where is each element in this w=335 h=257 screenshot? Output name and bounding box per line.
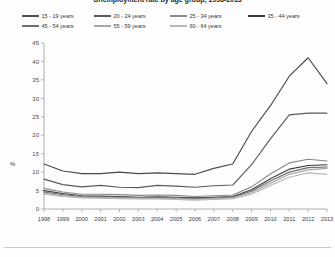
x-tick-label: 2003 <box>132 216 144 222</box>
legend-label: 15 - 19 years <box>42 13 74 19</box>
legend-swatch-icon <box>22 25 39 27</box>
chart-title: Unemployment rate by age group, 1998-201… <box>0 0 335 4</box>
plot-area: % 051015202530354045 1998199920002001200… <box>0 33 335 243</box>
series-line-15---19-years <box>44 58 327 175</box>
x-tick-label: 2007 <box>208 216 220 222</box>
legend-swatch-icon <box>248 15 265 17</box>
legend-item-55---59-years[interactable]: 55 - 59 years <box>94 21 164 31</box>
x-tick-label: 1999 <box>57 216 69 222</box>
legend-item-45---54-years[interactable]: 45 - 54 years <box>22 21 88 31</box>
legend-swatch-icon <box>94 15 111 17</box>
footer-divider <box>4 247 331 248</box>
x-tick-label: 2008 <box>226 216 238 222</box>
y-axis-label: % <box>10 161 15 167</box>
y-tick-label: 30 <box>32 96 39 102</box>
legend-label: 45 - 54 years <box>42 23 74 29</box>
legend-swatch-icon <box>22 15 39 17</box>
x-tick-label: 1998 <box>38 216 50 222</box>
series-line-25---34-years <box>44 159 327 196</box>
legend-item-25---34-years[interactable]: 25 - 34 years <box>170 11 242 21</box>
y-tick-label: 45 <box>32 40 39 46</box>
legend-label: 25 - 34 years <box>190 13 222 19</box>
y-tick-label: 15 <box>32 151 39 157</box>
legend-item-20---24-years[interactable]: 20 - 24 years <box>94 11 164 21</box>
x-tick-label: 2011 <box>283 216 295 222</box>
y-tick-label: 10 <box>32 169 39 175</box>
data-series-group <box>44 58 327 200</box>
legend-label: 20 - 24 years <box>114 13 146 19</box>
x-tick-label: 2002 <box>113 216 125 222</box>
x-tick-label: 2010 <box>264 216 276 222</box>
x-tick-label: 2012 <box>302 216 314 222</box>
x-tick-label: 2009 <box>245 216 257 222</box>
y-tick-label: 5 <box>36 188 40 194</box>
legend-item-15---19-years[interactable]: 15 - 19 years <box>22 11 88 21</box>
x-tick-label: 2005 <box>170 216 182 222</box>
legend-swatch-icon <box>94 25 111 27</box>
series-line-35---44-years <box>44 165 327 198</box>
x-axis: 1998199920002001200220032004200520062007… <box>38 209 333 222</box>
x-tick-label: 2001 <box>94 216 106 222</box>
chart-legend: 15 - 19 years20 - 24 years25 - 34 years3… <box>22 11 322 31</box>
legend-swatch-icon <box>170 15 187 17</box>
y-tick-label: 20 <box>32 132 39 138</box>
y-tick-label: 40 <box>32 59 39 65</box>
y-tick-label: 0 <box>36 206 40 212</box>
y-tick-label: 25 <box>32 114 39 120</box>
chart-figure: Unemployment rate by age group, 1998-201… <box>0 0 335 257</box>
legend-label: 55 - 59 years <box>114 23 146 29</box>
y-axis: 051015202530354045 <box>32 40 44 212</box>
x-tick-label: 2004 <box>151 216 163 222</box>
legend-item-35---44-years[interactable]: 35 - 44 years <box>248 11 314 21</box>
x-tick-label: 2013 <box>321 216 333 222</box>
legend-item-60---64-years[interactable]: 60 - 64 years <box>170 21 242 31</box>
x-tick-label: 2006 <box>189 216 201 222</box>
legend-swatch-icon <box>170 25 187 27</box>
y-tick-label: 35 <box>32 77 39 83</box>
legend-label: 60 - 64 years <box>190 23 222 29</box>
legend-label: 35 - 44 years <box>268 13 300 19</box>
line-chart-svg: 051015202530354045 199819992000200120022… <box>0 33 335 243</box>
x-tick-label: 2000 <box>76 216 88 222</box>
